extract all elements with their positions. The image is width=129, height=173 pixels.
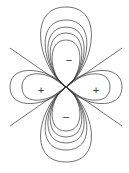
top-lobe-sign: − — [65, 56, 73, 65]
right-lobe-sign: + — [92, 86, 100, 95]
orbital-diagram — [0, 0, 129, 173]
left-lobe-sign: + — [37, 86, 45, 95]
bottom-lobe-sign: − — [62, 113, 70, 122]
